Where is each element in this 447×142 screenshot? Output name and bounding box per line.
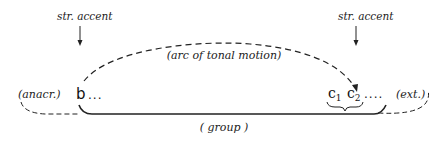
anacrusis-dashed-line [21,102,80,114]
anacrusis-label: (anacr.) [18,88,61,101]
note-c2: c2 [347,85,361,103]
group-label: ( group ) [200,121,249,134]
tonal-motion-diagram: str. accent str. accent (arc of tonal mo… [0,0,447,142]
c-brace-icon [327,102,363,111]
right-stress-accent: str. accent [338,10,394,46]
tonal-motion-arc: (arc of tonal motion) [84,43,358,92]
left-stress-accent: str. accent [57,10,113,46]
group-line [79,105,386,114]
arc-label: (arc of tonal motion) [167,49,282,62]
left-accent-arrow-icon [78,40,83,46]
right-accent-label: str. accent [338,10,394,22]
note-c-trail: .... [364,87,383,101]
right-accent-arrow-icon [354,40,359,46]
note-c1: c1 [328,85,342,103]
left-accent-label: str. accent [57,10,113,22]
note-b: b [76,85,86,103]
note-b-trail: ... [88,88,102,102]
extension-label: (ext.) [396,88,425,101]
